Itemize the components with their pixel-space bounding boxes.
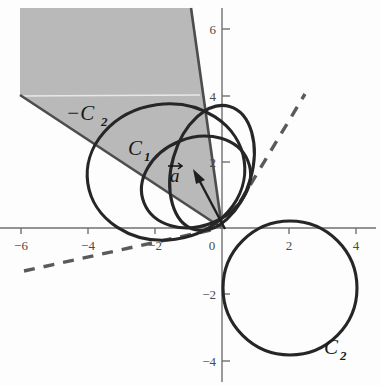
x-tick-label-2: 2 [286,238,293,253]
x-tick-label-4: 4 [353,238,360,253]
label-c1-main: C [128,136,143,160]
y-tick-label-4: 4 [210,89,217,104]
label-c2-sub: 2 [339,348,347,363]
y-tick-label--4: −4 [202,354,216,369]
x-tick-label-0: 0 [209,238,216,253]
math-figure: −6 −4 −2 0 2 4 6 4 2 −2 −4 [0,0,381,386]
y-tick-label--2: −2 [202,287,216,302]
label-c2: C 2 [324,335,347,363]
x-tick-label--6: −6 [14,238,28,253]
scan-seam-line [20,95,200,96]
label-minus-c2-main: −C [66,101,95,125]
y-tick-label-2: 2 [210,155,217,170]
label-c1-sub: 1 [144,149,151,164]
label-c2-main: C [324,335,339,359]
y-tick-label-6: 6 [210,22,217,37]
label-minus-c2-sub: 2 [100,114,108,129]
dashed-ray-lower [24,229,216,271]
figure-canvas: −6 −4 −2 0 2 4 6 4 2 −2 −4 [0,0,381,386]
x-tick-label--4: −4 [81,238,95,253]
